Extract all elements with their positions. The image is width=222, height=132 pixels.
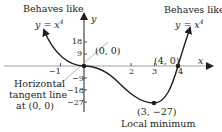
right-behavior-label: Behaves like: [164, 5, 222, 15]
origin-point-label: (0, 0): [95, 46, 121, 56]
root-point-label: (4, 0): [154, 56, 180, 66]
y-tick-9: 9: [77, 50, 82, 58]
left-behavior-equation: y = x4: [35, 17, 64, 30]
origin-point-dot: [82, 64, 87, 69]
y-tick-neg27: −27: [67, 99, 84, 107]
local-minimum-label: Local minimum: [121, 119, 195, 129]
x-tick-2: 2: [129, 68, 134, 76]
x-tick-3: 3: [152, 68, 157, 76]
x-tick-neg1: −1: [49, 68, 61, 76]
left-equation-exponent: 4: [60, 18, 64, 25]
tangent-label-line1: Horizontal: [14, 79, 65, 89]
x-tick-4: 4: [178, 68, 183, 76]
right-behavior-equation: y = x4: [175, 17, 204, 30]
y-axis-label: y: [91, 14, 96, 24]
tangent-label-line2: tangent line: [9, 90, 67, 100]
left-behavior-label: Behaves like: [23, 4, 84, 14]
x-axis-label: x: [198, 56, 203, 66]
tangent-label-line3: at (0, 0): [16, 101, 54, 111]
y-tick-neg18: −18: [67, 87, 84, 95]
right-equation-exponent: 4: [200, 18, 204, 25]
y-tick-18: 18: [72, 38, 82, 46]
min-point-dot: [152, 101, 157, 106]
min-point-label: (3, −27): [137, 107, 177, 117]
curve-left-arm: [44, 30, 84, 66]
y-tick-neg9: −9: [72, 75, 84, 83]
left-equation-text: y = x: [35, 19, 60, 30]
right-equation-text: y = x: [175, 19, 200, 30]
